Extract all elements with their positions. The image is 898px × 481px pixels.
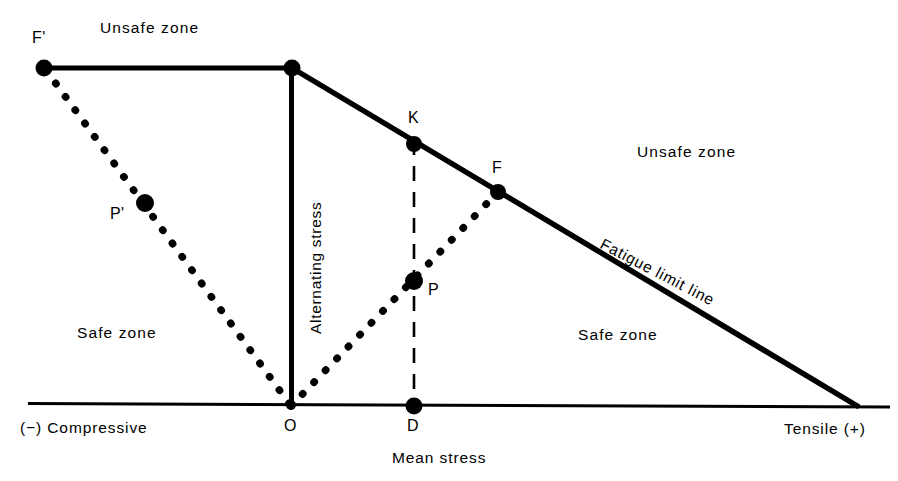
point-marker-apex	[284, 60, 301, 77]
point-label-f: F	[492, 160, 502, 176]
axis-label-mean-stress: Mean stress	[392, 450, 486, 466]
zone-label-unsafe-right: Unsafe zone	[637, 144, 736, 160]
dotted-load-line-compressive	[46, 70, 291, 406]
point-marker-p	[405, 272, 423, 290]
fatigue-limit-line	[292, 68, 859, 407]
mean-stress-axis-line	[28, 404, 890, 408]
point-marker-f	[490, 184, 506, 200]
diagram-canvas	[0, 0, 898, 481]
point-label-k: K	[408, 110, 419, 126]
axis-label-tensile: Tensile (+)	[784, 421, 866, 437]
zone-label-unsafe-upper-left: Unsafe zone	[100, 20, 199, 36]
point-label-d: D	[407, 418, 419, 434]
fatigue-limit-diagram: Unsafe zone Unsafe zone Safe zone Safe z…	[0, 0, 898, 481]
point-label-o: O	[284, 418, 297, 434]
point-marker-k	[406, 136, 422, 152]
point-marker-o	[286, 400, 296, 410]
point-marker-p-prime	[136, 194, 154, 212]
zone-label-safe-right: Safe zone	[578, 327, 658, 343]
axis-label-compressive: (−) Compressive	[20, 420, 148, 436]
point-label-p: P	[428, 282, 439, 298]
point-marker-d	[406, 398, 423, 415]
axis-label-alternating-stress: Alternating stress	[308, 202, 324, 334]
point-marker-f-prime	[36, 60, 53, 77]
zone-label-safe-left: Safe zone	[77, 325, 157, 341]
point-label-p-prime: P'	[110, 206, 125, 222]
point-label-f-prime: F'	[32, 30, 46, 46]
